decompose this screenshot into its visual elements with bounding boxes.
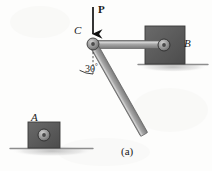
mechanism-diagram [0, 0, 212, 171]
figure-caption: (a) [121, 146, 133, 157]
pin-joint-a [38, 129, 50, 141]
link-ac [90, 42, 148, 136]
angle-value: 30 [85, 63, 95, 74]
pin-joint-c [87, 38, 99, 50]
figure-container: P C B A 30° (a) [0, 0, 212, 171]
pin-joint-b [158, 39, 170, 51]
joint-label-a: A [31, 112, 38, 123]
degree-symbol: ° [95, 62, 98, 70]
joint-label-c: C [74, 25, 81, 36]
link-cb [93, 41, 165, 49]
force-label-p: P [98, 4, 105, 15]
joint-label-b: B [184, 38, 191, 49]
angle-label: 30° [85, 63, 98, 74]
